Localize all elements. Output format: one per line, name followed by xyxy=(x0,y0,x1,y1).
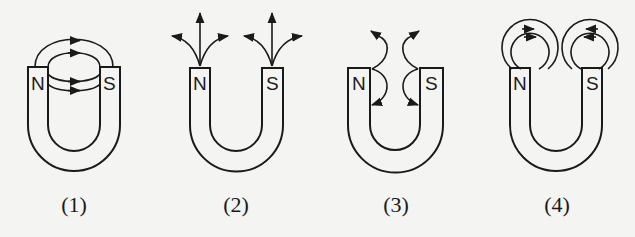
magnet-field-figure: N S N S xyxy=(0,0,635,237)
north-pole-label: N xyxy=(31,73,45,94)
field-lines-4 xyxy=(502,20,618,69)
north-pole-label: N xyxy=(513,73,527,94)
magnet-4: N S xyxy=(502,20,618,171)
magnet-1: N S xyxy=(28,39,120,171)
south-pole-label: S xyxy=(266,73,279,94)
field-lines-3 xyxy=(371,31,419,105)
magnet-2: N S xyxy=(172,13,302,172)
caption-1: (1) xyxy=(44,192,104,218)
field-lines-1 xyxy=(35,39,113,91)
field-lines-2 xyxy=(172,13,302,66)
south-pole-label: S xyxy=(586,73,599,94)
north-pole-label: N xyxy=(352,73,366,94)
north-pole-label: N xyxy=(193,73,207,94)
magnet-3: N S xyxy=(348,31,443,173)
caption-2: (2) xyxy=(206,192,266,218)
south-pole-label: S xyxy=(425,73,438,94)
caption-4: (4) xyxy=(527,192,587,218)
south-pole-label: S xyxy=(103,73,116,94)
caption-3: (3) xyxy=(366,192,426,218)
